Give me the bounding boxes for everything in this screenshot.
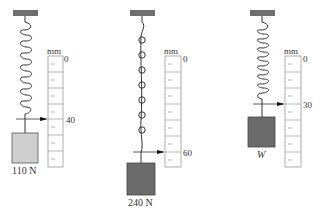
panel-2: 240 N mm 0 60	[127, 10, 193, 208]
ceiling-support	[130, 10, 155, 16]
weight-block	[248, 117, 275, 147]
pointer-arrow-icon	[157, 150, 165, 154]
spring-scale-diagram: 110 N mm 0 40	[0, 0, 323, 212]
unit-label: mm	[164, 46, 178, 56]
pointer-arrow-icon	[40, 117, 48, 121]
panel-1: 110 N mm 0 40	[12, 10, 76, 176]
spring-coil	[257, 16, 268, 104]
scale-zero: 0	[64, 54, 69, 64]
scale-zero: 0	[303, 54, 308, 64]
panel-3: W mm 0 30	[248, 10, 313, 167]
spring-wire	[141, 16, 144, 163]
unit-label: mm	[47, 46, 61, 56]
weight-label: W	[257, 149, 267, 160]
scale-zero: 0	[183, 54, 188, 64]
scale-reading: 30	[303, 100, 313, 110]
measuring-scale: mm 0 30	[284, 46, 313, 167]
unit-label: mm	[284, 46, 298, 56]
scale-reading: 60	[183, 148, 193, 158]
ceiling-support	[250, 10, 275, 16]
spring-coil	[20, 16, 31, 119]
ceiling-support	[13, 10, 38, 16]
scale-reading: 40	[66, 115, 76, 125]
weight-label: 240 N	[128, 197, 153, 208]
weight-block	[127, 163, 155, 195]
weight-block	[12, 133, 38, 163]
measuring-scale: mm 0 40	[47, 46, 76, 167]
weight-label: 110 N	[12, 165, 36, 176]
measuring-scale: mm 0 60	[164, 46, 193, 167]
pointer-arrow-icon	[277, 102, 285, 106]
